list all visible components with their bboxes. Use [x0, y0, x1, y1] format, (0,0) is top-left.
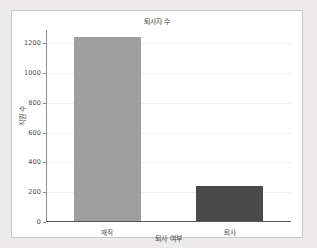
y-tick-mark	[43, 43, 46, 44]
y-tick-mark	[43, 192, 46, 193]
y-tick-label: 800	[28, 99, 41, 107]
y-tick-mark	[43, 222, 46, 223]
chart-title: 퇴사자 수	[12, 16, 302, 26]
y-tick-label: 600	[28, 129, 41, 137]
y-tick-mark	[43, 133, 46, 134]
bar	[196, 186, 263, 221]
x-axis-label: 퇴사 여부	[46, 233, 291, 243]
y-tick-label: 1200	[24, 39, 41, 47]
y-tick-label: 200	[28, 188, 41, 196]
y-tick-label: 400	[28, 158, 41, 166]
y-tick-label: 1000	[24, 69, 41, 77]
chart-card: 퇴사자 수 직원 수 퇴사 여부 020040060080010001200 재…	[11, 10, 303, 238]
bar	[74, 37, 141, 221]
plot-area: 020040060080010001200 재직퇴사	[46, 30, 291, 222]
x-tick-label: 재직	[101, 227, 113, 237]
x-axis-spine	[46, 221, 291, 222]
y-tick-label: 0	[37, 218, 41, 226]
x-tick-label: 퇴사	[224, 227, 236, 237]
y-tick-mark	[43, 103, 46, 104]
y-tick-mark	[43, 73, 46, 74]
y-tick-mark	[43, 162, 46, 163]
y-axis-label: 직원 수	[17, 106, 27, 126]
chart-page: 퇴사자 수 직원 수 퇴사 여부 020040060080010001200 재…	[0, 0, 317, 248]
